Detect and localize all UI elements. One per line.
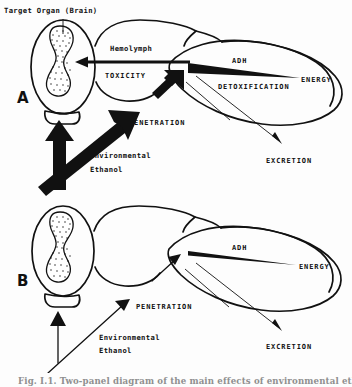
thorax-top-a	[95, 20, 196, 46]
proboscis-uptake-arrow-b	[50, 311, 66, 363]
excretion-arrow-b	[196, 263, 282, 331]
label-ethanol-b: Ethanol	[99, 346, 132, 355]
metabolism-arrow-a	[152, 70, 184, 99]
label-penetration-a: PENETRATION	[129, 119, 185, 127]
brain-shape-a	[46, 26, 73, 96]
label-target-organ-a: Target Organ (Brain)	[4, 6, 98, 15]
label-adh-b: ADH	[232, 244, 247, 252]
panel-b-diagram: ADH ENERGY PENETRATION Environmental Eth…	[0, 193, 352, 373]
label-detoxification-a: DETOXIFICATION	[218, 83, 290, 91]
thorax-bottom-a	[96, 82, 161, 101]
label-environmental-a: Environmental	[90, 151, 151, 160]
label-energy-b: ENERGY	[299, 263, 330, 271]
label-penetration-b: PENETRATION	[136, 303, 192, 311]
label-hemolymph-a: Hemolymph	[110, 44, 152, 53]
panel-a-diagram: Target Organ (Brain) Hemolymph TOXICITY …	[0, 0, 352, 196]
panel-letter-b: B	[17, 272, 29, 290]
wing-base-a	[196, 31, 222, 42]
label-excretion-a: EXCRETION	[266, 157, 312, 165]
figure-caption: Fig. I.1. Two-panel diagram of the main …	[0, 376, 352, 387]
panel-letter-a: A	[17, 89, 29, 107]
label-excretion-b: EXCRETION	[266, 343, 312, 351]
label-toxicity-a: TOXICITY	[105, 72, 146, 80]
label-environmental-b: Environmental	[99, 333, 160, 342]
adh-wedge-b	[188, 251, 296, 265]
thorax-top-b	[94, 206, 195, 232]
thorax-bottom-b	[95, 267, 160, 286]
abdomen-link-b	[185, 269, 229, 307]
figure-caption-text: Fig. I.1. Two-panel diagram of the main …	[18, 376, 348, 386]
figure-root: Target Organ (Brain) Hemolymph TOXICITY …	[0, 0, 352, 387]
proboscis-b	[45, 294, 80, 307]
label-ethanol-a: Ethanol	[90, 165, 123, 174]
adh-wedge-a	[188, 63, 300, 78]
label-adh-a: ADH	[232, 57, 247, 65]
metabolism-arrow-b	[152, 254, 181, 281]
wing-base-b	[195, 217, 221, 228]
brain-shape-b	[46, 212, 73, 282]
label-energy-a: ENERGY	[301, 76, 332, 84]
toxicity-arrow-a	[75, 57, 190, 68]
proboscis-a	[45, 111, 80, 124]
